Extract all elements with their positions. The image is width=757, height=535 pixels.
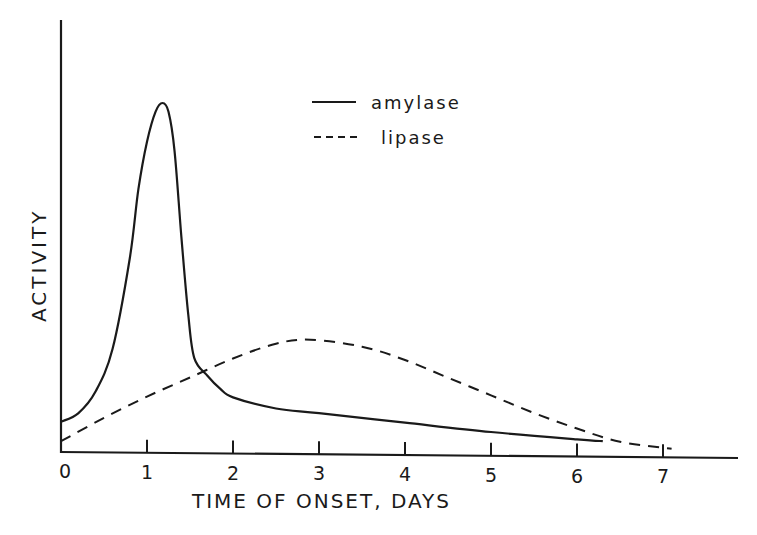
x-ticks	[147, 440, 663, 458]
x-tick-label: 5	[485, 464, 497, 486]
legend-label-amylase: amylase	[371, 92, 461, 113]
x-tick-label: 2	[227, 462, 239, 484]
x-tick-label: 0	[59, 460, 71, 482]
x-tick-labels: 01234567	[59, 460, 669, 487]
chart: 01234567 amylase lipase TIME OF ONSET, D…	[0, 0, 757, 535]
y-axis-label: ACTIVITY	[27, 209, 51, 322]
x-tick-label: 6	[571, 465, 583, 487]
x-tick-label: 4	[399, 463, 411, 485]
amylase-curve	[61, 103, 603, 441]
x-tick-label: 3	[313, 462, 325, 484]
x-tick-label: 1	[141, 461, 153, 483]
legend-label-lipase: lipase	[381, 127, 446, 148]
lipase-curve	[61, 340, 672, 449]
legend: amylase lipase	[312, 92, 461, 148]
x-axis-label: TIME OF ONSET, DAYS	[191, 489, 451, 513]
x-tick-label: 7	[657, 465, 669, 487]
x-axis	[60, 452, 738, 458]
